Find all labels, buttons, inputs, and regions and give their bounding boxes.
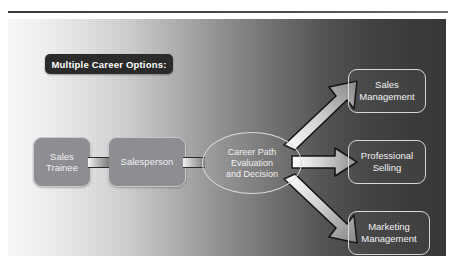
node-sales-management-line1: Sales xyxy=(359,79,414,91)
node-career-path-decision[interactable]: Career Path Evaluation and Decision xyxy=(202,132,302,194)
node-salesperson[interactable]: Salesperson xyxy=(108,137,186,187)
top-horizontal-rule xyxy=(8,11,448,13)
node-marketing-management[interactable]: Marketing Management xyxy=(348,211,430,255)
node-professional-selling-line2: Selling xyxy=(361,162,413,174)
diagram-title-banner: Multiple Career Options: xyxy=(45,54,173,74)
node-professional-selling[interactable]: Professional Selling xyxy=(348,140,426,184)
node-decision-line3: and Decision xyxy=(226,169,278,180)
node-decision-line2: Evaluation xyxy=(226,158,278,169)
node-sales-management[interactable]: Sales Management xyxy=(348,69,426,113)
node-sales-trainee-line2: Trainee xyxy=(46,162,78,174)
node-decision-line1: Career Path xyxy=(226,147,278,158)
node-professional-selling-line1: Professional xyxy=(361,150,413,162)
diagram-title: Multiple Career Options: xyxy=(51,59,166,70)
connector-trainee-to-salesperson xyxy=(88,157,109,168)
node-marketing-management-line1: Marketing xyxy=(361,221,416,233)
node-sales-management-line2: Management xyxy=(359,91,414,103)
node-sales-trainee[interactable]: Sales Trainee xyxy=(33,137,91,187)
career-path-diagram: Multiple Career Options: Sales Trainee S… xyxy=(8,19,446,256)
node-marketing-management-line2: Management xyxy=(361,233,416,245)
node-salesperson-line1: Salesperson xyxy=(121,156,174,168)
node-sales-trainee-line1: Sales xyxy=(46,151,78,163)
